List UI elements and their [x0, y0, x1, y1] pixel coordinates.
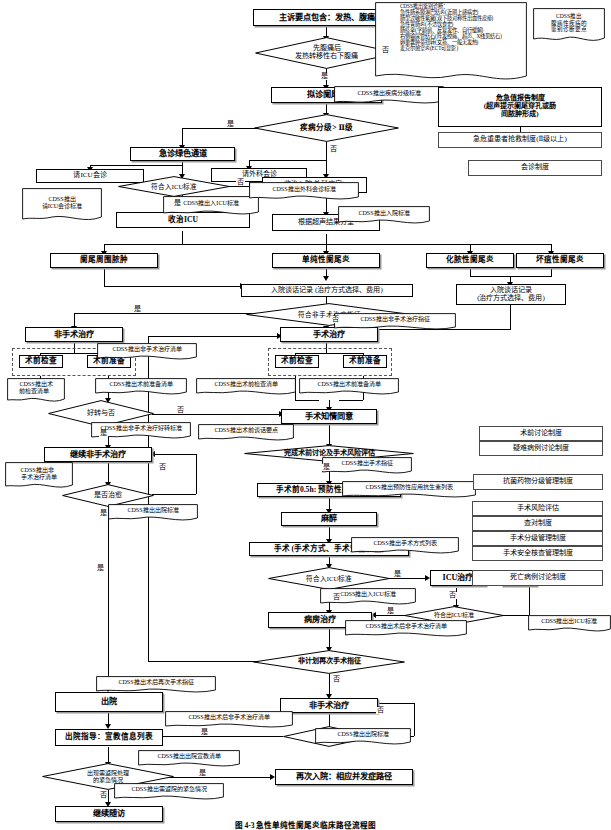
cdss-admission-standard[interactable]: CDSS推出入院标准 [338, 206, 430, 226]
cdss-surgery-consult-standard[interactable]: CDSS推出外科会诊标准 [249, 182, 359, 202]
cdss-antibiotics-list[interactable]: CDSS推出预防性应用抗生素列表 [342, 481, 476, 500]
cdss-postop-nonop-list-2[interactable]: CDSS推出术后非手术治疗清单 [165, 711, 293, 730]
node-admission-talk-left[interactable]: 入院谈话记录 (治疗方式选择、费用) [241, 284, 413, 297]
cdss-icu-consult-standard[interactable]: CDSS推出 请ICU会诊标准 [22, 188, 102, 224]
system-preop-discussion[interactable]: 术前讨论制度 [479, 426, 603, 441]
cdss-surgery-indication[interactable]: CDSS推出手术指征 [322, 457, 412, 476]
node-simple-appendicitis[interactable]: 单纯性阑尾炎 [272, 253, 380, 268]
edge-label-yes: 是 [322, 464, 331, 471]
cdss-exit-icu-standard[interactable]: CDSS推出出ICU标准 [528, 615, 611, 634]
cdss-label: CDSS推出术前准备清单 [95, 378, 187, 391]
node-nonop-treatment[interactable]: 非手术治疗 [25, 327, 123, 342]
node-preop-exam-left[interactable]: 术前检查 [19, 355, 63, 368]
cdss-label: CDSS推出需返院的紧急情况 [114, 783, 224, 796]
cdss-label: CDSS推出手术方式列表 [351, 537, 459, 550]
node-periappendiceal-abscess[interactable]: 阑尾周围脓肿 [50, 253, 158, 268]
node-discharge[interactable]: 出院 [55, 692, 163, 712]
system-difficult-case-discussion[interactable]: 疑难病例讨论制度 [479, 441, 603, 456]
cdss-label: CDSS推出 请ICU会诊标准 [22, 188, 102, 218]
connector [326, 234, 327, 244]
decision-label: 疾病分级> Ⅱ级 [254, 114, 399, 142]
cdss-preop-prep-list-left[interactable]: CDSS推出术前准备清单 [95, 378, 187, 397]
connector [372, 703, 415, 704]
cdss-preop-exam-list-right[interactable]: CDSS推出术前检查清单 [196, 378, 296, 397]
connector [329, 424, 330, 446]
cdss-label: CDSS推出出院标准 [315, 728, 411, 741]
node-postop-nonop-treatment[interactable]: 非手术治疗 [280, 698, 378, 713]
cdss-nonop-list-2[interactable]: CDSS推出非 手术治疗清单 [5, 462, 73, 491]
node-informed-consent[interactable]: 手术知情同意 [281, 409, 377, 424]
cdss-label: CDSS推出术后非手术治疗清单 [165, 711, 293, 724]
connector [196, 454, 197, 494]
cdss-label: CDSS推出预防性应用抗生素列表 [342, 481, 476, 494]
connector [152, 494, 196, 495]
cdss-preop-talk-key[interactable]: CDSS推出术前谈话要点 [198, 424, 294, 443]
system-triage-rescue[interactable]: 急危重患者抢救制度(Ⅱ级以上) [438, 132, 602, 148]
connector [104, 286, 242, 287]
cdss-label: CDSS推出出院宣教清单 [138, 750, 240, 763]
connector [470, 269, 471, 276]
cdss-preop-exam-list-left[interactable]: CDSS推出术 前检查清单 [7, 378, 65, 404]
cdss-discharge-standard-1[interactable]: CDSS推出出院标准 [108, 504, 198, 523]
system-critical-value-report[interactable]: 危急值报告制度 (超声提示阑尾穿孔或肠 间脓肿形成) [438, 87, 602, 127]
system-death-case-discussion[interactable]: 死亡病例讨论制度 [472, 570, 603, 586]
edge-label-no: 否 [448, 592, 457, 599]
cdss-return-emergency[interactable]: CDSS推出需返院的紧急情况 [114, 783, 224, 802]
node-anesthesia[interactable]: 麻醉 [281, 512, 377, 526]
connector [108, 462, 109, 484]
cdss-discharge-edu-list[interactable]: CDSS推出出院宣教清单 [138, 750, 240, 769]
system-surgery-grading[interactable]: 手术分级管理制度 [472, 531, 603, 546]
connector [551, 269, 552, 276]
cdss-discharge-standard-2[interactable]: CDSS推出出院标准 [315, 728, 411, 747]
connector [501, 615, 529, 616]
decision-meet-icu-2[interactable]: 符合入ICU标准 [268, 567, 390, 590]
decision-disease-grade[interactable]: 疾病分级> Ⅱ级 [254, 114, 399, 142]
cdss-differential-diagnosis[interactable]: CDSS推出鉴别诊断： 急性肠系膜淋巴结炎(近期上感病史) 肠型过敏性紫癜(双下… [375, 2, 527, 84]
node-green-channel[interactable]: 急诊绿色通道 [130, 147, 235, 161]
edge-label-yes: 是 [320, 73, 329, 80]
node-gangrenous-appendicitis[interactable]: 坏疽性阑尾炎 [516, 253, 604, 268]
system-surgery-safety-check[interactable]: 手术安全核查管理制度 [472, 546, 603, 561]
connector [104, 244, 551, 245]
system-consultation[interactable]: 会诊制度 [468, 160, 602, 176]
flowchart-canvas: 主诉要点包含：发热、腹痛 先腹痛后 发热转移性右下腹痛 拟诊阑尾炎 疾病分级> … [0, 0, 611, 830]
decision-unplanned-reop[interactable]: 非计划再次手术指征 [253, 650, 405, 674]
cdss-label: CDSS推出术 前检查清单 [7, 378, 65, 398]
cdss-nonop-list[interactable]: CDSS推出非手术治疗清单 [97, 343, 197, 362]
cdss-abdominal-pain-key-points[interactable]: CDSS推出 腹痛性疾病的 鉴别诊断要点 [533, 8, 605, 44]
edge-label-no: 否 [99, 792, 108, 799]
cdss-nonop-indication[interactable]: CDSS推出非手术治疗指征 [334, 313, 456, 332]
node-preop-exam-right[interactable]: 术前检查 [275, 355, 319, 368]
node-admission-talk-right[interactable]: 入院谈话记录 (治疗方式选择、费用) [456, 284, 566, 305]
edge-label-yes: 是 [99, 430, 108, 437]
node-preop-prep-right[interactable]: 术前准备 [343, 355, 387, 368]
cdss-preop-prep-list-right[interactable]: CDSS推出术前准备清单 [299, 378, 399, 397]
cdss-postop-nonop-list[interactable]: CDSS推出术后非手术治疗清单 [345, 620, 467, 639]
node-discharge-guide[interactable]: 出院指导：宣教信息列表 [55, 729, 163, 746]
cdss-label: CDSS推出术前检查清单 [196, 378, 296, 391]
connector [182, 231, 183, 244]
cdss-label: CDSS推出非手术治疗清单 [97, 343, 197, 356]
edge-label-no: 否 [332, 594, 341, 601]
cdss-label: CDSS推出出院标准 [108, 504, 198, 517]
system-surgery-risk-assessment[interactable]: 手术风险评估 [472, 501, 603, 516]
cdss-disease-grade-standard[interactable]: CDSS推出疾病分级标准 [334, 86, 444, 106]
node-suppurative-appendicitis[interactable]: 化脓性阑尾炎 [426, 253, 514, 268]
edge-label-no: 否 [381, 47, 390, 54]
node-readmission[interactable]: 再次入院：相应并发症路径 [275, 769, 413, 785]
cdss-label: CDSS推出外科会诊标准 [249, 182, 359, 196]
node-continue-nonop[interactable]: 继续非手术治疗 [44, 447, 152, 462]
edge-label-no: 否 [332, 676, 341, 683]
cdss-label: CDSS推出术后再次手术指征 [96, 676, 216, 689]
edge-label-yes: 是 [96, 565, 105, 572]
edge-label-yes: 是 [226, 121, 235, 128]
system-check-back[interactable]: 查对制度 [472, 516, 603, 531]
system-antibiotic-grading[interactable]: 抗菌药物分级管理制度 [473, 474, 603, 490]
cdss-reop-indication[interactable]: CDSS推出术后再次手术指征 [96, 676, 216, 695]
connector [326, 141, 327, 160]
cdss-surgery-method-list[interactable]: CDSS推出手术方式列表 [351, 537, 459, 556]
cdss-label: CDSS推出非 手术治疗清单 [5, 462, 73, 485]
arrowhead [323, 276, 329, 281]
cdss-label: CDSS推出术前谈话要点 [198, 424, 294, 437]
edge-label-no: 否 [331, 316, 340, 323]
